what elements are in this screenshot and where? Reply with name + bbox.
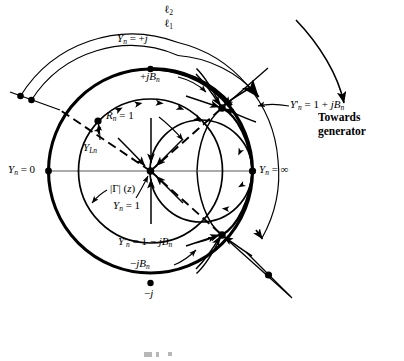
- point-yn-infinity: [249, 167, 256, 174]
- point-yn-zero: [45, 168, 52, 175]
- label-yn-infinity: Yn = ∞: [259, 164, 288, 176]
- cropped-caption-fragment: [144, 352, 172, 357]
- towards-generator-arrow: [296, 20, 344, 103]
- point-yprime-minus: [218, 231, 226, 239]
- smith-chart-svg: [0, 0, 404, 361]
- label-l2: ℓ2: [164, 4, 173, 16]
- lower-susceptance-arc-inner: [197, 171, 222, 235]
- label-yn-zero: Yn = 0: [8, 164, 35, 176]
- point-yn-one-center: [147, 167, 155, 175]
- label-gamma-z: |Γ| (z): [110, 183, 135, 194]
- rn1-circle-direction-arrows: [222, 148, 246, 212]
- leader-yprime-minus: [196, 237, 215, 243]
- upper-susceptance-arc-inner: [197, 108, 222, 171]
- radial-line-upper-node-extension: [222, 68, 268, 108]
- arc-l2-arrowhead: [256, 230, 263, 239]
- label-towards-generator-line2: generator: [318, 124, 366, 138]
- label-yprime-minus: Y'n = 1 − jBn: [118, 236, 172, 248]
- radial-line-lower-node-extension: [222, 235, 290, 296]
- leader-yn1: [136, 176, 148, 198]
- label-plus-jbn: +jBn: [140, 71, 160, 83]
- point-y-load: [94, 117, 101, 124]
- label-towards-generator-line1: Towards: [318, 110, 366, 124]
- point-arc-l2-start: [17, 93, 24, 100]
- label-l1: ℓ1: [164, 18, 173, 30]
- point-yn-minus-j: [147, 280, 153, 286]
- label-yn-plus-j: Yn = +j: [117, 33, 148, 45]
- label-minus-jbn: −jBn: [130, 258, 150, 270]
- point-yprime-plus: [218, 104, 226, 112]
- terminal-point-dot: [265, 271, 272, 278]
- label-rn-one: Rn = 1: [106, 110, 134, 122]
- point-arc-l1-start: [28, 97, 35, 104]
- leader-gamma: [92, 190, 107, 203]
- smith-chart-figure: ℓ2 ℓ1 Yn = +j +jBn Y'n = 1 + jBn Rn = 1 …: [0, 0, 404, 361]
- arc-l2: [21, 34, 179, 96]
- label-yn-minus-j: −j: [144, 288, 153, 299]
- label-yn-one: Yn = 1: [113, 200, 140, 212]
- leader-yprime-plus: [258, 105, 289, 107]
- label-y-load: YLn: [83, 142, 97, 154]
